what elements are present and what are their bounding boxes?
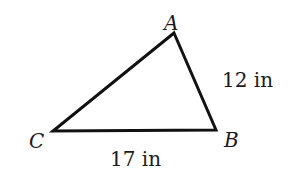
triangle-abc <box>53 33 216 131</box>
vertex-label-b: B <box>223 128 239 152</box>
side-label-ab: 12 in <box>222 68 273 92</box>
vertex-label-a: A <box>162 11 178 35</box>
side-label-cb: 17 in <box>110 147 161 171</box>
vertex-label-c: C <box>29 129 44 153</box>
triangle-diagram: A B C 12 in 17 in <box>0 0 296 179</box>
